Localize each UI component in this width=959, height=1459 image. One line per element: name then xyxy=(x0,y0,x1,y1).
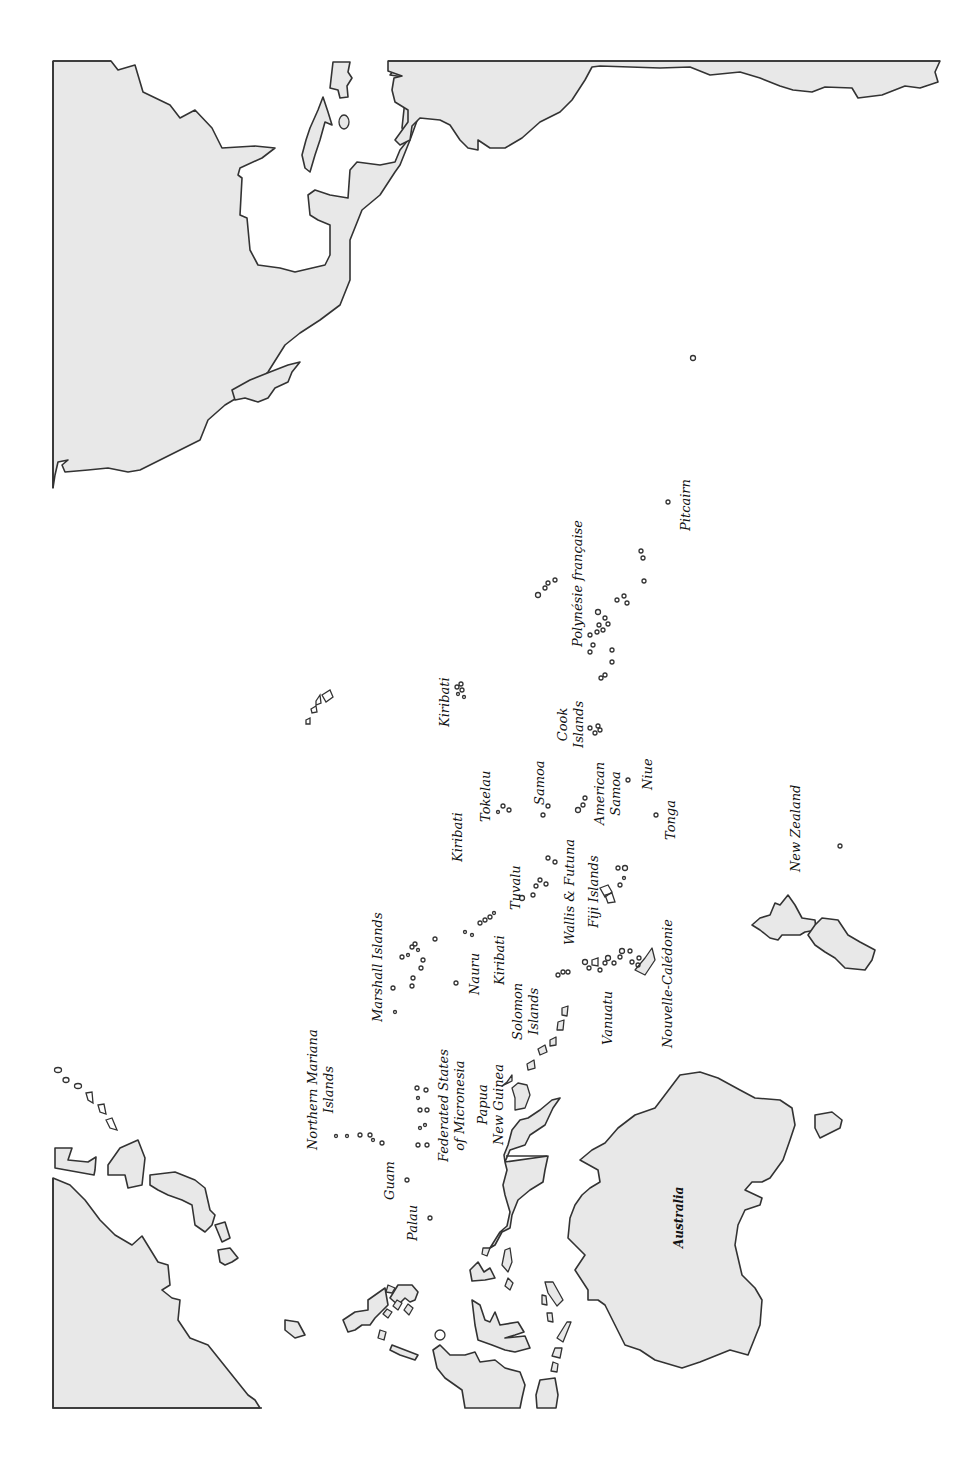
island-small-round xyxy=(435,1330,445,1340)
island-borneo xyxy=(433,1345,525,1408)
island-tokelau-1 xyxy=(497,811,500,814)
island-vanuatu-9 xyxy=(620,949,625,954)
island-pf-10 xyxy=(610,648,614,652)
island-vanuatu-5 xyxy=(603,961,607,965)
island-marshall-9 xyxy=(407,954,410,957)
island-gilbert-6 xyxy=(493,912,496,915)
label-line: Vanuatu xyxy=(600,991,616,1045)
island-marshall-4 xyxy=(411,976,415,980)
island-solomon-2 xyxy=(538,1045,547,1055)
label-line: Kiribati xyxy=(492,935,508,985)
island-new-zealand-north xyxy=(752,895,816,940)
island-easter xyxy=(691,356,696,361)
island-sulawesi xyxy=(472,1300,530,1352)
label-tuvalu: Tuvalu xyxy=(508,865,524,910)
island-nmi-3 xyxy=(358,1133,362,1137)
island-fsm-2 xyxy=(425,1143,429,1147)
island-solomon-1 xyxy=(527,1060,535,1070)
island-japan-2 xyxy=(108,1140,145,1188)
island-philippines-6 xyxy=(383,1309,392,1318)
label-line: Islands xyxy=(526,983,542,1040)
island-new-britain xyxy=(512,1083,530,1110)
island-fiji-6 xyxy=(623,877,626,880)
landmass-north-america xyxy=(53,61,430,488)
island-tonga xyxy=(654,813,658,817)
label-line: Northern Mariana xyxy=(305,1029,321,1150)
label-line: Palau xyxy=(405,1205,421,1241)
island-fsm-4 xyxy=(424,1124,427,1127)
island-marshall-11 xyxy=(413,942,417,946)
island-cuba xyxy=(330,62,352,98)
island-fiji-5 xyxy=(616,866,620,870)
island-pf-8 xyxy=(601,628,605,632)
label-polynesie-francaise: Polynésie française xyxy=(570,520,586,647)
label-line: Tokelau xyxy=(478,771,494,822)
island-vanuatu-10 xyxy=(628,949,632,953)
island-pf-2 xyxy=(591,643,595,647)
label-line: Federated States xyxy=(436,1049,452,1162)
island-nmi-2 xyxy=(346,1135,349,1138)
island-lesser-sunda-6 xyxy=(551,1362,558,1372)
island-pf-1 xyxy=(588,650,592,654)
island-small-caribbean xyxy=(339,115,349,129)
label-tonga: Tonga xyxy=(663,800,679,840)
island-loyalty-3 xyxy=(637,956,641,960)
island-kiribati-line-3 xyxy=(460,688,464,692)
label-fiji-islands: Fiji Islands xyxy=(586,855,602,928)
island-moluccas-3 xyxy=(505,1278,513,1290)
island-nmi-5 xyxy=(372,1139,375,1142)
island-fsm-5 xyxy=(425,1108,429,1112)
island-lesser-sunda-1 xyxy=(545,1282,563,1306)
label-line: Islands xyxy=(571,701,587,748)
label-line: Kiribati xyxy=(450,812,466,862)
label-line: Cook xyxy=(555,701,571,748)
island-hawaii-1 xyxy=(306,718,310,724)
label-line: Nauru xyxy=(467,953,483,995)
island-santa-cruz-2 xyxy=(561,970,565,974)
label-line: Papua xyxy=(475,1064,491,1145)
label-niue: Niue xyxy=(640,758,656,790)
label-australia: Australia xyxy=(672,1187,687,1248)
label-solomon-islands: Solomon Islands xyxy=(510,983,543,1040)
island-pf-16 xyxy=(625,601,629,605)
island-hainan xyxy=(285,1320,305,1338)
island-philippines-5 xyxy=(404,1304,413,1315)
island-solomon-4 xyxy=(557,1020,564,1030)
island-fsm-9 xyxy=(424,1088,428,1092)
island-vanuatu-3 xyxy=(592,958,598,966)
label-line: Nouvelle-Calédonie xyxy=(660,919,676,1048)
island-pf-13 xyxy=(603,673,607,677)
island-pf-5 xyxy=(597,623,601,627)
island-solomon-5 xyxy=(562,1006,568,1016)
island-philippines-7 xyxy=(378,1330,386,1340)
island-marshall-12 xyxy=(433,937,437,941)
island-american-samoa-3 xyxy=(583,796,587,800)
island-moluccas-2 xyxy=(502,1248,512,1272)
label-kiribati-west: Kiribati xyxy=(492,935,508,985)
island-marshall-7 xyxy=(417,949,420,952)
label-kiribati-central: Kiribati xyxy=(450,812,466,862)
island-pf-4 xyxy=(595,630,599,634)
island-pf-12 xyxy=(599,676,603,680)
label-line: Niue xyxy=(640,758,656,790)
label-vanuatu: Vanuatu xyxy=(600,991,616,1045)
island-kurile-2 xyxy=(63,1078,69,1083)
island-santa-cruz-3 xyxy=(566,970,570,974)
island-tuvalu-4 xyxy=(538,878,542,882)
island-lesser-sunda-3 xyxy=(547,1313,553,1322)
island-samoa-1 xyxy=(541,813,545,817)
island-pf-14 xyxy=(615,598,619,602)
island-fsm-3 xyxy=(419,1127,422,1130)
island-fiji-4 xyxy=(623,866,628,871)
island-java-bit xyxy=(536,1378,558,1408)
label-line: Pitcairn xyxy=(678,479,694,531)
island-kiribati-line-2 xyxy=(459,682,463,686)
label-nouvelle-caledonie: Nouvelle-Calédonie xyxy=(660,919,676,1048)
island-pf-18 xyxy=(639,549,643,553)
island-marshall-8 xyxy=(400,955,404,959)
island-marquesas-4 xyxy=(553,578,557,582)
island-hawaii-2 xyxy=(311,706,317,713)
island-tuvalu-5 xyxy=(544,882,548,886)
island-tuvalu-2 xyxy=(531,893,535,897)
island-hawaii-3 xyxy=(316,695,321,705)
